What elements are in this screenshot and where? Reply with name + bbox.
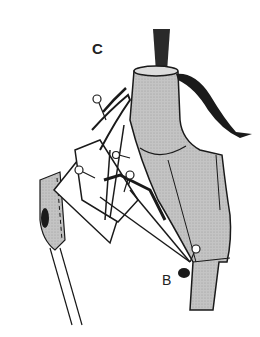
dress-form-illustration: [0, 0, 260, 337]
label-b: B: [162, 272, 171, 288]
fabric-strap: [176, 74, 252, 138]
point-b-marker: [178, 268, 190, 278]
label-c: C: [92, 40, 103, 57]
